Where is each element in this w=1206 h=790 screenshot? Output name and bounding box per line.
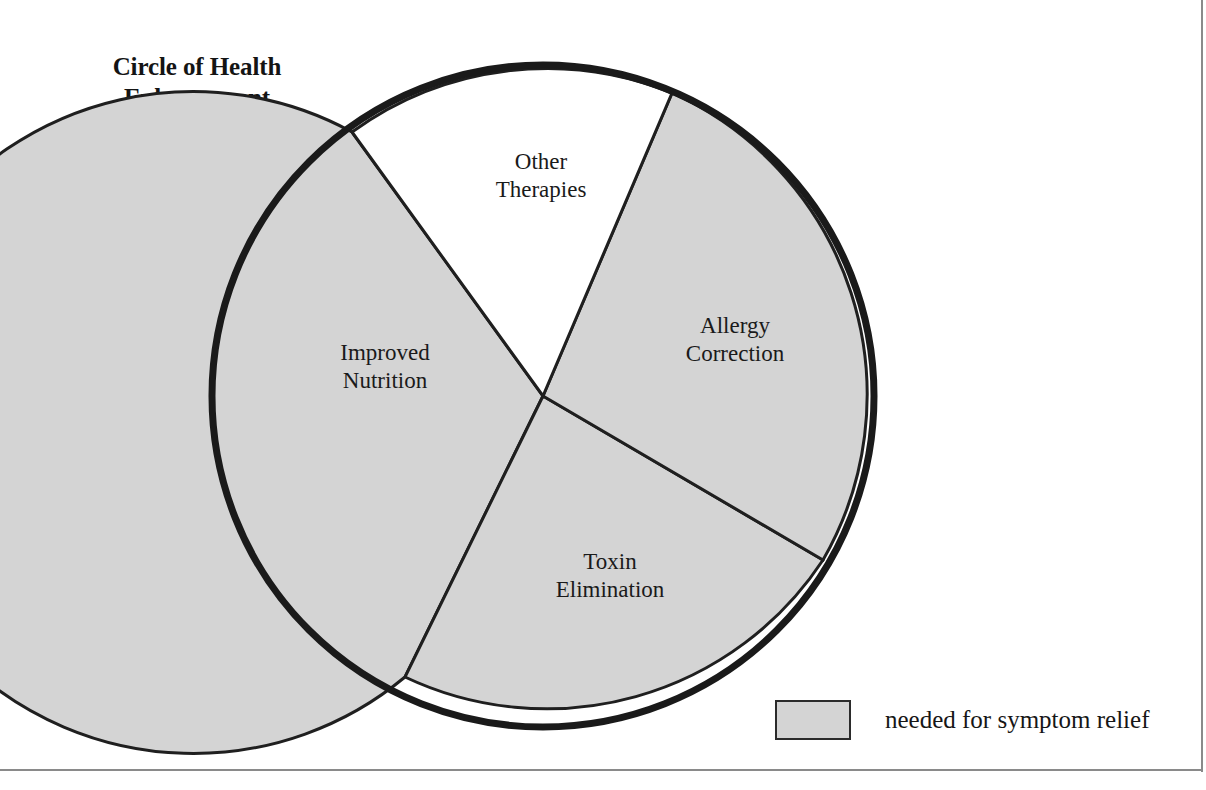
pie-label-toxin-elimination-line2: Elimination [505, 576, 715, 604]
figure-canvas: Circle of Health Enhancement Other Thera… [0, 0, 1206, 790]
chart-legend: needed for symptom relief [775, 700, 1150, 740]
pie-label-toxin-elimination: Toxin Elimination [505, 548, 715, 604]
pie-label-improved-nutrition-line2: Nutrition [285, 367, 485, 395]
pie-label-allergy-correction: Allergy Correction [635, 312, 835, 368]
pie-label-other-therapies-line1: Other [436, 148, 646, 176]
pie-label-toxin-elimination-line1: Toxin [505, 548, 715, 576]
pie-label-improved-nutrition-line1: Improved [285, 339, 485, 367]
pie-label-other-therapies: Other Therapies [436, 148, 646, 204]
pie-label-allergy-correction-line1: Allergy [635, 312, 835, 340]
legend-label: needed for symptom relief [885, 706, 1150, 734]
pie-label-improved-nutrition: Improved Nutrition [285, 339, 485, 395]
legend-swatch-shaded [775, 700, 851, 740]
pie-label-allergy-correction-line2: Correction [635, 340, 835, 368]
pie-chart [0, 0, 1206, 790]
pie-label-other-therapies-line2: Therapies [436, 176, 646, 204]
